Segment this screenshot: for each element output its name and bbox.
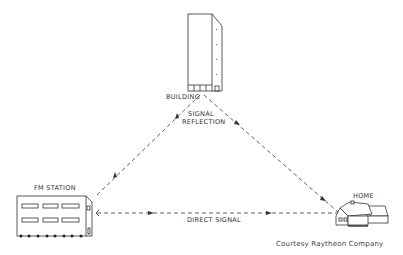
home-label: HOME [353,192,374,200]
direct-signal-label: DIRECT SIGNAL [187,216,241,224]
fm-station-label: FM STATION [34,184,76,192]
credit-text: Courtesy Raytheon Company [276,240,383,248]
arrow-icon [266,211,272,215]
arrow-icon [148,211,154,215]
signal-path-up [97,95,200,195]
signal-reflection-label-line1: SIGNAL [188,110,214,118]
building-icon [188,14,222,91]
fm-station-icon [17,196,92,238]
building-label: BUILDING [166,93,200,101]
arrow-icon [113,172,117,178]
signal-reflection-label-line2: REFLECTION [182,118,226,126]
arrow-icon [234,120,240,125]
home-icon [336,201,388,226]
signal-path-down [204,95,338,212]
